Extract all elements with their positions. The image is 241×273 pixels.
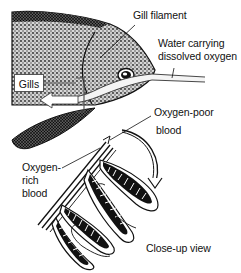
gill-closeup [38, 130, 162, 270]
label-gills: Gills [14, 74, 44, 92]
label-gill-filament: Gill filament [133, 9, 187, 21]
label-oxygen-rich-line1: Oxygen- [22, 161, 61, 173]
label-water-line2: dissolved oxygen [158, 50, 237, 62]
label-water-line1: Water carrying [158, 37, 224, 49]
label-oxygen-rich-line3: blood [22, 187, 47, 199]
label-oxygen-poor-line1: Oxygen-poor [154, 106, 214, 118]
label-closeup-view: Close-up view [146, 242, 211, 254]
oxygen-poor-leader [110, 116, 151, 140]
label-oxygen-rich-line2: rich [22, 174, 39, 186]
label-oxygen-poor-line2: blood [156, 124, 181, 136]
